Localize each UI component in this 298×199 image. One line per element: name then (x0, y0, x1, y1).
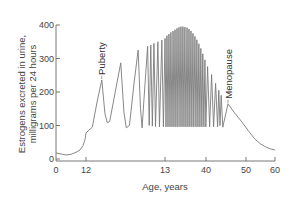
y-tick-label: 0 (49, 154, 54, 164)
x-axis-title: Age, years (142, 181, 188, 192)
annotation-label: Menopause (223, 49, 234, 99)
y-tick-label: 100 (39, 121, 54, 131)
x-tick-label: 12 (81, 165, 91, 175)
x-tick-label: 13 (160, 165, 170, 175)
y-tick-label: 300 (39, 54, 54, 64)
y-axis-title-line-1: Estrogens excreted in urine, (16, 35, 27, 153)
x-tick-label: 40 (201, 165, 211, 175)
y-tick-label: 400 (39, 20, 54, 30)
chart: 0100200300400 01213405060 PubertyMenopau… (0, 0, 298, 199)
annotation-label: Puberty (96, 42, 107, 75)
x-tick-label: 50 (241, 165, 251, 175)
y-axis-title-line-2: milligrams per 24 hours (27, 44, 38, 143)
series-line (56, 27, 275, 155)
y-tick-label: 200 (39, 87, 54, 97)
x-tick-label: 60 (270, 165, 280, 175)
x-tick-label: 0 (53, 165, 58, 175)
